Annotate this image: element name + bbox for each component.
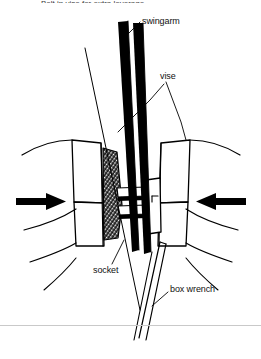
left-vise-jaw (22, 140, 104, 290)
label-vise: vise (160, 72, 176, 81)
right-vise-jaw (158, 140, 240, 290)
label-box-wrench: box wrench (170, 285, 215, 294)
technical-illustration: Bolt in vise for extra leverage (0, 0, 261, 359)
label-socket: socket (93, 266, 118, 275)
label-swingarm: swingarm (142, 17, 180, 26)
arrow-left-icon (196, 193, 246, 210)
leader-socket (112, 240, 124, 264)
swingarm-bars (118, 21, 151, 254)
bottom-divider (0, 325, 261, 326)
leader-vise-right (166, 82, 186, 140)
bolt-drive-assembly (117, 178, 161, 234)
arrow-right-icon (16, 193, 66, 210)
vise-swingarm-drawing (0, 0, 261, 359)
